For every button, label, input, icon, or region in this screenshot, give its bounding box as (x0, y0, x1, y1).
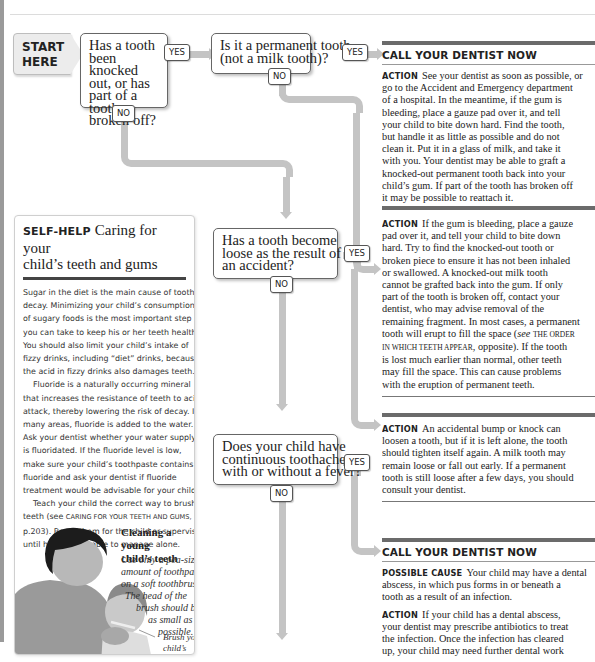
text-line: , opposite). If the tooth (473, 341, 567, 352)
body-line: Ask your dentist whether your water supp… (23, 431, 186, 444)
text-line: with the eruption of permanent teeth. (382, 379, 595, 391)
q4-yes-tag[interactable]: YES (344, 454, 370, 471)
q3-no-tag[interactable]: NO (270, 276, 293, 293)
title-line: child’s teeth and gums (23, 256, 186, 272)
action-loose-tooth: ActionAn accidental bump or knock can lo… (382, 413, 595, 502)
caption-title-line: Cleaning a young (121, 526, 195, 552)
page-edge (0, 0, 4, 642)
body-line: of sugary foods is the most important st… (23, 312, 186, 325)
text-line: it may be possible to reattach it. (382, 192, 595, 204)
question-continuous-toothache: Does your child have continuous toothach… (213, 434, 338, 485)
start-label: START (22, 40, 70, 55)
text-line: hard. Try to find the knocked-out tooth … (382, 242, 595, 254)
question-loose-accident: Has a tooth become loose as the result o… (213, 228, 338, 279)
body-line: fizzy drinks, including “diet” drinks, b… (23, 352, 186, 365)
text-line: If the gum is bleeding, place a gauze (422, 218, 573, 229)
top-rule (10, 14, 595, 15)
action-text: ActionAn accidental bump or knock can lo… (382, 423, 595, 496)
q1-line: been knocked (89, 52, 159, 77)
callout-line: Brush your (163, 632, 195, 643)
self-help-label: SELF-HELP (23, 225, 91, 238)
text-line: up, your child may need further dental w… (382, 645, 595, 657)
text-line: of a hospital. In the meantime, if the g… (382, 94, 595, 106)
text-line: or swallowed. A knocked-out milk tooth (382, 267, 595, 279)
text-line: abscess, in which pus forms in or beneat… (382, 579, 595, 591)
start-here-badge: START HERE (13, 33, 71, 75)
text-line: may fill the space. This can cause probl… (382, 366, 595, 378)
text-line: bleeding, place a gauze pad over it, and… (382, 107, 595, 119)
thin-rule (382, 501, 595, 502)
caption-line: amount of toothpaste (121, 566, 195, 578)
q3-yes-tag[interactable]: YES (344, 245, 370, 262)
body-line: decay. Minimizing your child’s consumpti… (23, 299, 186, 312)
body-line: Fluoride is a naturally occurring minera… (23, 378, 186, 391)
text-line: remain loose or fall out early. If a per… (382, 460, 595, 472)
thick-rule (382, 206, 595, 210)
q2-no-tag[interactable]: NO (268, 68, 291, 85)
text-line: See your dentist as soon as possible, or (422, 70, 583, 81)
text-line: go to the Accident and Emergency departm… (382, 82, 595, 94)
text-line: If your child has a dental abscess, (422, 609, 561, 620)
thick-rule (382, 413, 595, 417)
body-line: fluoride and ask your dentist if fluorid… (23, 471, 186, 484)
caption-line: The head of the (121, 590, 195, 602)
text-line: with you. Your dentist may be able to gr… (382, 155, 595, 167)
action-heading: CALL YOUR DENTIST NOW (382, 45, 595, 65)
caption-text: Use only a pea-sized amount of toothpast… (121, 554, 195, 638)
possible-cause-text: Possible causeYour child may have a dent… (382, 567, 595, 604)
action-text: ActionSee your dentist as soon as possib… (382, 70, 595, 204)
caption-line: as small as (121, 614, 195, 626)
self-help-title: SELF-HELPCaring for your child’s teeth a… (23, 222, 186, 272)
cross-reference-link[interactable]: THE ORDER (533, 330, 575, 339)
here-label: HERE (22, 55, 70, 70)
callout-line: teeth from (163, 654, 195, 655)
q4-no-tag[interactable]: NO (270, 485, 293, 502)
see-ref: see (517, 328, 530, 339)
q3-line: an accident? (222, 259, 329, 272)
text-line: An accidental bump or knock can (422, 423, 561, 434)
body-line: you can take to keep his or her teeth he… (23, 326, 186, 339)
callout-line: child’s (163, 643, 195, 654)
callout-text: Brush your child’s teeth from (163, 632, 195, 655)
text-line: your dentist may prescribe antibiotics t… (382, 621, 595, 633)
text-line: pad over it, and tell your child to bite… (382, 230, 595, 242)
body-line: attack, thereby lowering the risk of dec… (23, 405, 186, 418)
caption-line: on a soft toothbrush. (121, 578, 195, 590)
body-line: many areas, fluoride is added to the wat… (23, 418, 186, 431)
possible-cause-label: Possible cause (382, 568, 462, 578)
text-line: dentist, who may advise removal of the (382, 303, 595, 315)
text-line: knocked-out permanent tooth back into yo… (382, 168, 595, 180)
self-help-panel: SELF-HELPCaring for your child’s teeth a… (14, 215, 195, 655)
title-rule (23, 277, 186, 280)
text-line: remaining fragment. In most cases, a per… (382, 316, 595, 328)
q1-yes-tag[interactable]: YES (164, 44, 190, 61)
self-help-body: Sugar in the diet is the main cause of t… (23, 286, 186, 551)
text-line: tooth will erupt to fill the space ( (382, 328, 517, 339)
body-line: Sugar in the diet is the main cause of t… (23, 286, 186, 299)
q1-no-tag[interactable]: NO (112, 105, 135, 122)
action-heading: CALL YOUR DENTIST NOW (382, 542, 595, 562)
action-text: ActionIf the gum is bleeding, place a ga… (382, 218, 595, 391)
action-label: Action (382, 610, 418, 620)
q4-line: with or without a fever? (222, 465, 329, 478)
text-line: clean it. Put it in a glass of milk, and… (382, 143, 595, 155)
text-line: cannot be grafted back into the gum. If … (382, 279, 595, 291)
body-line: Teach your child the correct way to brus… (23, 497, 186, 510)
action-call-dentist-knocked-out: CALL YOUR DENTIST NOW ActionSee your den… (382, 41, 595, 210)
text-line: tooth as a result of an infection. (382, 591, 595, 603)
action-call-dentist-abscess: CALL YOUR DENTIST NOW Possible causeYour… (382, 538, 595, 662)
photo-parent-brushing-child-teeth: Cleaning a young child’s teeth Use only … (15, 524, 195, 655)
text-line: but handle it as little as possible and … (382, 131, 595, 143)
cross-reference-link[interactable]: Caring for your teeth and gums, (66, 513, 192, 521)
cross-reference-link[interactable]: IN WHICH TEETH APPEAR (382, 343, 473, 352)
body-line: that increases the resistance of teeth t… (23, 392, 186, 405)
text-line: consult your dentist. (382, 484, 595, 496)
thin-rule (382, 396, 595, 397)
body-line: You should also limit your child’s intak… (23, 339, 186, 352)
body-line: treatment would be advisable for your ch… (23, 484, 186, 497)
question-permanent-tooth: Is it a permanent tooth (not a milk toot… (211, 33, 311, 74)
q2-yes-tag[interactable]: YES (342, 44, 368, 61)
action-label: Action (382, 219, 418, 229)
text-line: part of the tooth is broken off, contact… (382, 291, 595, 303)
action-label: Action (382, 424, 418, 434)
